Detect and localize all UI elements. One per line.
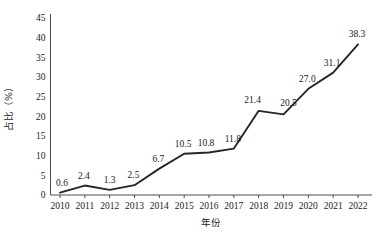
x-tick-label: 2018	[249, 201, 268, 211]
y-tick-label: 30	[36, 72, 46, 82]
data-point-label: 2.4	[78, 171, 90, 181]
data-point-label: 31.1	[324, 58, 341, 68]
y-axis-title: 占比（%）	[3, 82, 14, 131]
y-tick-label: 25	[36, 92, 46, 102]
data-point-label: 0.6	[56, 178, 68, 188]
y-tick-label: 20	[36, 112, 46, 122]
x-tick-label: 2022	[349, 201, 368, 211]
data-point-label: 10.5	[175, 139, 192, 149]
data-point-label: 6.7	[152, 154, 164, 164]
data-point-label: 1.3	[104, 175, 116, 185]
data-point-label: 38.3	[349, 29, 366, 39]
y-tick-label: 5	[41, 171, 46, 181]
x-tick-label: 2016	[200, 201, 219, 211]
line-chart: 051015202530354045 201020112012201320142…	[0, 0, 388, 236]
data-point-label: 2.5	[128, 170, 140, 180]
y-tick-label: 45	[36, 13, 46, 23]
x-tick-label: 2010	[51, 201, 70, 211]
x-tick-label: 2015	[175, 201, 194, 211]
y-tick-label: 40	[36, 33, 46, 43]
x-tick-label: 2017	[224, 201, 243, 211]
data-point-label: 10.8	[198, 138, 215, 148]
chart-canvas: 051015202530354045 201020112012201320142…	[0, 0, 388, 236]
y-tick-label: 15	[36, 131, 46, 141]
data-point-label: 21.4	[244, 95, 261, 105]
x-tick-label: 2020	[299, 201, 318, 211]
x-tick-label: 2014	[150, 201, 169, 211]
x-tick-label: 2011	[76, 201, 95, 211]
x-tick-label: 2013	[125, 201, 144, 211]
x-tick-label: 2019	[274, 201, 293, 211]
data-point-label: 20.5	[280, 98, 297, 108]
data-point-label: 27.0	[299, 74, 316, 84]
y-tick-label: 0	[41, 190, 46, 200]
x-tick-label: 2012	[100, 201, 119, 211]
x-tick-label: 2021	[324, 201, 343, 211]
y-tick-label: 35	[36, 53, 46, 63]
data-point-label: 11.8	[225, 134, 242, 144]
x-axis-title: 年份	[201, 217, 221, 228]
y-tick-label: 10	[36, 151, 46, 161]
